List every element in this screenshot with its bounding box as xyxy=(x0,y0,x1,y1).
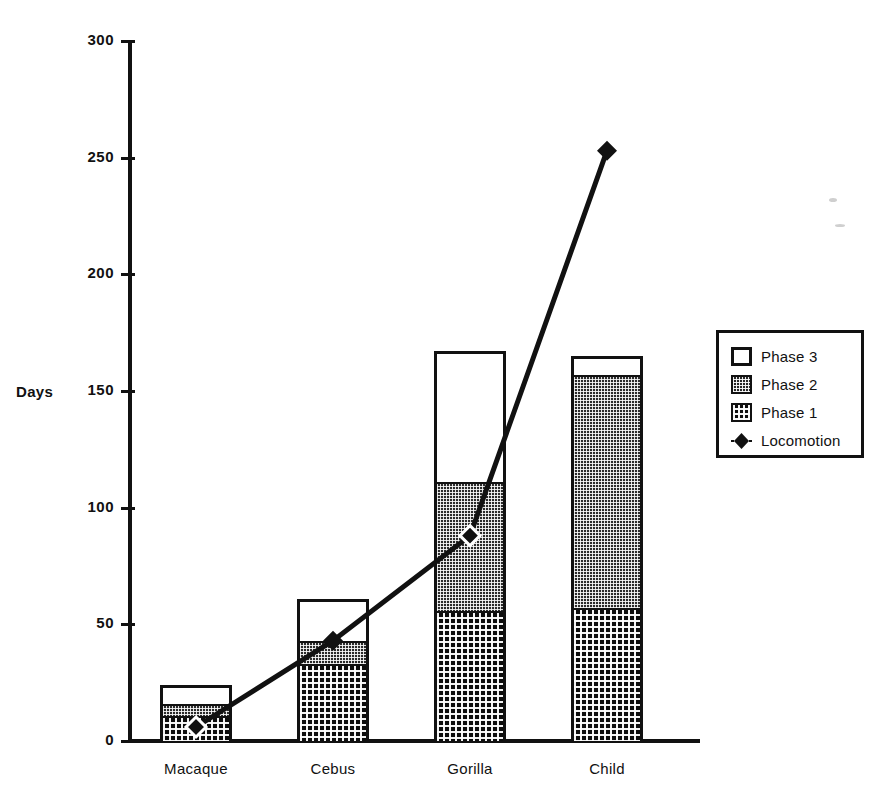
y-tick-label-250: 250 xyxy=(44,148,114,165)
legend-item-phase-3[interactable]: Phase 3 xyxy=(731,342,861,370)
legend-diamond-icon xyxy=(731,431,752,450)
x-label-cebus: Cebus xyxy=(253,760,413,777)
legend-item-phase-1[interactable]: Phase 1 xyxy=(731,398,861,426)
legend-label: Phase 3 xyxy=(761,348,817,365)
scan-speckle xyxy=(829,198,837,202)
plot-area xyxy=(128,40,700,741)
bar-segment-phase2-gorilla[interactable] xyxy=(434,484,506,612)
scan-speckle xyxy=(835,224,845,227)
bar-segment-phase3-gorilla[interactable] xyxy=(434,351,506,484)
y-tick-label-50: 50 xyxy=(44,614,114,631)
x-label-gorilla: Gorilla xyxy=(390,760,550,777)
bar-segment-phase3-macaque[interactable] xyxy=(160,685,232,706)
x-label-child: Child xyxy=(527,760,687,777)
legend-swatch-p2-icon xyxy=(731,375,752,394)
bar-segment-phase1-child[interactable] xyxy=(571,610,643,741)
bar-segment-phase1-macaque[interactable] xyxy=(160,718,232,741)
legend-swatch-p3-icon xyxy=(731,347,752,366)
bar-segment-phase3-cebus[interactable] xyxy=(297,599,369,643)
legend-item-locomotion[interactable]: Locomotion xyxy=(731,426,861,454)
y-tick-label-200: 200 xyxy=(44,264,114,281)
legend: Phase 3Phase 2Phase 1Locomotion xyxy=(716,330,864,458)
bar-segment-phase2-child[interactable] xyxy=(571,377,643,610)
x-label-macaque: Macaque xyxy=(116,760,276,777)
legend-label: Phase 1 xyxy=(761,404,817,421)
bar-segment-phase2-cebus[interactable] xyxy=(297,643,369,666)
bar-segment-phase3-child[interactable] xyxy=(571,356,643,377)
bar-segment-phase1-cebus[interactable] xyxy=(297,666,369,741)
legend-item-phase-2[interactable]: Phase 2 xyxy=(731,370,861,398)
legend-label: Phase 2 xyxy=(761,376,817,393)
chart-canvas: Days 300250200150100500 MacaqueCebusGori… xyxy=(0,0,889,807)
y-tick-label-300: 300 xyxy=(44,31,114,48)
legend-label: Locomotion xyxy=(761,432,841,449)
y-tick-label-150: 150 xyxy=(44,381,114,398)
bar-segment-phase2-macaque[interactable] xyxy=(160,706,232,718)
bar-segment-phase1-gorilla[interactable] xyxy=(434,613,506,741)
y-tick-label-0: 0 xyxy=(44,731,114,748)
legend-swatch-p1-icon xyxy=(731,403,752,422)
y-tick-label-100: 100 xyxy=(44,498,114,515)
